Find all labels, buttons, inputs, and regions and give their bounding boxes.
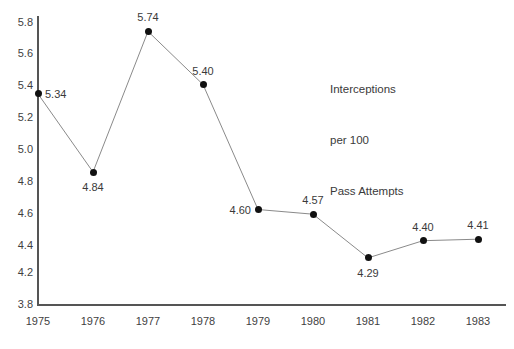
data-point-label: 4.29	[341, 267, 395, 279]
data-point-marker	[475, 236, 482, 243]
data-point-marker	[145, 28, 152, 35]
data-point-label: 4.40	[396, 221, 450, 233]
data-point-label: 5.40	[176, 65, 230, 77]
interceptions-line-chart: 5.8 5.6 5.4 5.2 5.0 4.8 4.6 4.4 4.2 3.8 …	[0, 0, 514, 349]
data-point-marker	[255, 206, 262, 213]
chart-annotation: Interceptions per 100 Pass Attempts	[330, 47, 404, 234]
annotation-line-3: Pass Attempts	[330, 183, 404, 200]
data-point-marker	[365, 254, 372, 261]
data-point-label: 4.60	[197, 204, 251, 216]
annotation-line-2: per 100	[330, 132, 404, 149]
data-point-label: 5.34	[45, 88, 66, 100]
series-line	[0, 0, 514, 349]
data-point-label: 5.74	[121, 11, 175, 23]
annotation-line-1: Interceptions	[330, 81, 404, 98]
plot-area: 5.344.845.745.404.604.574.294.404.41	[0, 0, 514, 349]
data-point-marker	[90, 169, 97, 176]
data-point-marker	[420, 237, 427, 244]
data-point-marker	[200, 81, 207, 88]
data-point-marker	[310, 211, 317, 218]
data-point-marker	[35, 90, 42, 97]
data-point-label: 4.41	[451, 219, 505, 231]
data-point-label: 4.84	[66, 181, 120, 193]
